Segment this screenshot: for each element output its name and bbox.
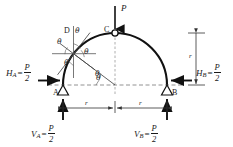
VA-denominator: 2: [48, 135, 54, 144]
VB-subscript: B: [140, 132, 144, 139]
hinge-C: [112, 30, 118, 36]
arch-curve: [63, 33, 167, 85]
angle-label-theta-4: θ: [64, 58, 69, 67]
load-label-P: P: [121, 3, 127, 13]
reaction-label-VB: VB= P 2: [134, 124, 158, 143]
VB-denominator: 2: [151, 135, 157, 144]
point-label-B: B: [172, 88, 177, 97]
HB-equals: =: [207, 68, 212, 78]
dimension-label-right-r: r: [139, 99, 142, 107]
HB-denominator: 2: [214, 74, 220, 83]
angle-label-theta-2: θ: [57, 37, 62, 46]
support-B-triangle: [162, 85, 173, 95]
VB-numerator: P: [151, 124, 158, 133]
HA-subscript: A: [13, 71, 17, 78]
point-label-D: D: [64, 26, 70, 35]
HA-equals: =: [17, 68, 22, 78]
VA-numerator: P: [48, 124, 55, 133]
HA-denominator: 2: [24, 74, 30, 83]
VB-fraction: P 2: [151, 124, 158, 143]
HA-numerator: P: [24, 63, 31, 72]
angle-label-theta-center: θ: [96, 73, 101, 82]
VA-subscript: A: [37, 132, 41, 139]
HB-numerator: P: [214, 63, 221, 72]
VA-fraction: P 2: [48, 124, 55, 143]
support-A-triangle: [58, 85, 69, 95]
angle-label-theta-1: θ: [75, 26, 80, 35]
HB-subscript: B: [203, 71, 207, 78]
VB-equals: =: [144, 129, 149, 139]
HB-fraction: P 2: [214, 63, 221, 82]
point-label-A: A: [53, 88, 59, 97]
dimension-label-height-r: r: [189, 52, 192, 60]
dimension-label-left-r: r: [85, 99, 88, 107]
reaction-label-HB: HB= P 2: [196, 63, 221, 82]
reaction-label-HA: HA= P 2: [6, 63, 31, 82]
VA-equals: =: [41, 129, 46, 139]
angle-label-theta-3: θ: [84, 47, 89, 56]
HA-fraction: P 2: [24, 63, 31, 82]
point-label-C: C: [104, 25, 109, 34]
reaction-label-VA: VA= P 2: [31, 124, 55, 143]
